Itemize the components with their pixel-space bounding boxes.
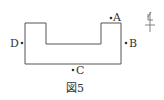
- point-a-label: A: [113, 12, 121, 23]
- building-outline: [25, 23, 121, 64]
- point-d-label: D: [10, 38, 19, 49]
- point-c-label: C: [76, 65, 84, 76]
- point-b-label: B: [129, 38, 137, 49]
- point-c-dot: [72, 69, 75, 72]
- north-arrow-icon: [145, 12, 155, 32]
- point-a-dot: [110, 17, 113, 20]
- point-b-dot: [125, 42, 128, 45]
- figure-caption: 図5: [66, 83, 84, 95]
- point-d-dot: [21, 42, 24, 45]
